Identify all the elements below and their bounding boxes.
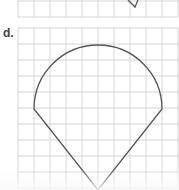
bottom-fade [0,168,179,190]
grid-figure [0,0,179,190]
main-grid [18,28,178,190]
top-grid [18,0,178,17]
figure-label: d. [3,26,14,40]
